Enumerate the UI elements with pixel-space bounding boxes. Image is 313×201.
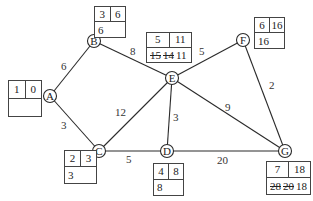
box-b-final: 6 <box>110 7 126 21</box>
box-g-crossed-1: 28 <box>270 180 281 192</box>
edge-label-f-g: 2 <box>269 79 275 91</box>
box-c-final: 3 <box>80 151 96 166</box>
box-f-working: 16 <box>255 33 284 48</box>
svg-text:F: F <box>240 34 246 46</box>
box-g: 7 18 28 20 18 <box>266 161 311 195</box>
box-c: 2 3 3 <box>64 150 97 184</box>
box-d: 4 8 8 <box>153 163 184 196</box>
box-c-working: 3 <box>65 167 96 183</box>
edge-a-b <box>50 41 94 96</box>
svg-text:G: G <box>281 145 289 157</box>
box-g-order: 7 <box>267 162 288 177</box>
box-a-order: 1 <box>9 81 25 98</box>
svg-text:E: E <box>169 72 176 84</box>
edge-label-e-d: 3 <box>173 111 179 123</box>
box-a: 1 0 <box>8 80 42 117</box>
box-a-final: 0 <box>25 81 42 98</box>
box-e-working-value: 11 <box>176 49 187 61</box>
box-g-working: 28 20 18 <box>267 178 310 194</box>
box-e-crossed-1: 15 <box>150 49 161 61</box>
edge-c-e <box>99 78 172 151</box>
box-f-final: 16 <box>269 18 284 32</box>
box-b-working: 6 <box>95 22 125 37</box>
edge-label-a-c: 3 <box>61 119 67 131</box>
edge-label-d-g: 20 <box>217 154 229 166</box>
box-e: 5 11 15 14 11 <box>146 32 192 63</box>
box-b-working-value: 6 <box>98 24 104 36</box>
edge-label-c-d: 5 <box>126 153 132 165</box>
box-f-working-value: 16 <box>258 35 269 47</box>
edge-label-b-e: 8 <box>130 45 136 57</box>
node-e: E <box>166 72 179 85</box>
node-d: D <box>161 145 174 158</box>
edge-f-g <box>243 40 285 151</box>
box-g-crossed-2: 20 <box>283 180 294 192</box>
box-g-working-value: 18 <box>296 180 307 192</box>
box-g-final: 18 <box>288 162 310 177</box>
edge-label-c-e: 12 <box>115 106 126 118</box>
box-d-order: 4 <box>154 164 168 179</box>
box-e-working: 15 14 11 <box>147 48 191 63</box>
box-d-final: 8 <box>168 164 183 179</box>
box-f: 6 16 16 <box>254 17 285 49</box>
edge-label-a-b: 6 <box>61 60 67 72</box>
node-f: F <box>237 34 250 47</box>
edge-e-d <box>167 78 172 151</box>
box-c-working-value: 3 <box>68 169 74 181</box>
box-e-crossed-2: 14 <box>163 49 174 61</box>
box-b-order: 3 <box>95 7 110 21</box>
box-f-order: 6 <box>255 18 269 32</box>
svg-text:A: A <box>46 90 54 102</box>
box-d-working-value: 8 <box>157 181 163 193</box>
node-g: G <box>279 145 292 158</box>
box-e-order: 5 <box>147 33 169 47</box>
box-d-working: 8 <box>154 180 183 196</box>
node-a: A <box>44 90 57 103</box>
svg-text:D: D <box>163 145 171 157</box>
box-e-final: 11 <box>169 33 192 47</box>
box-b: 3 6 6 <box>94 6 126 38</box>
box-c-order: 2 <box>65 151 80 166</box>
edge-label-e-f: 5 <box>199 45 205 57</box>
box-a-working <box>9 99 41 117</box>
edge-label-e-g: 9 <box>225 101 231 113</box>
edge-a-c <box>50 96 99 151</box>
